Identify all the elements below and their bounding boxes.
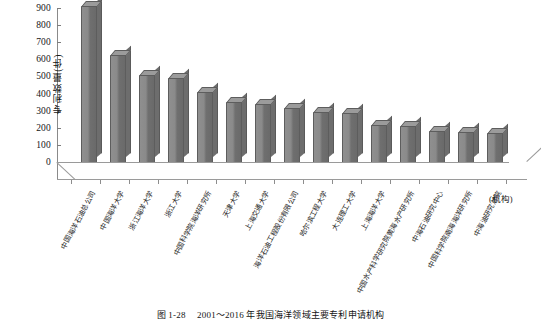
x-tick-mark — [129, 180, 130, 184]
bar-front-face — [371, 125, 387, 162]
x-tick-mark — [216, 180, 217, 184]
figure-container: 9008007006005004003002001000 专利数量(件) 中国海… — [0, 0, 541, 327]
bar[interactable] — [313, 112, 329, 162]
bar[interactable] — [429, 131, 445, 162]
bar[interactable] — [284, 108, 300, 162]
x-tick-mark — [506, 180, 507, 184]
bar[interactable] — [81, 6, 97, 162]
x-tick-mark — [100, 180, 101, 184]
x-tick-mark — [361, 180, 362, 184]
y-tick-label: 200 — [2, 122, 57, 134]
x-axis-title: (机构) — [489, 192, 513, 204]
bar-side-face — [242, 93, 247, 157]
bar-series — [57, 8, 527, 162]
x-axis-label: 大连理工大学 — [331, 190, 358, 232]
bar-front-face — [255, 104, 271, 162]
x-tick-mark — [187, 180, 188, 184]
bar-front-face — [110, 55, 126, 162]
bar-front-face — [400, 126, 416, 162]
x-axis-label: 中海石油研究中心 — [411, 190, 445, 244]
bar-front-face — [139, 75, 155, 162]
bar-side-face — [184, 69, 189, 157]
x-axis-label: 浙江海洋大学 — [128, 190, 155, 232]
x-axis-label: 天津大学 — [222, 190, 242, 219]
x-axis-labels: 中国海洋石油总公司中国海洋大学浙江海洋大学浙江大学中国科学院海洋研究所天津大学上… — [57, 190, 537, 300]
y-tick-label: 400 — [2, 88, 57, 100]
bar-front-face — [458, 132, 474, 162]
bar-front-face — [81, 6, 97, 162]
y-tick-label: 900 — [2, 2, 57, 14]
bar[interactable] — [255, 104, 271, 162]
x-tick-mark — [477, 180, 478, 184]
y-tick-label: 0 — [2, 156, 57, 168]
y-tick-label: 300 — [2, 105, 57, 117]
bar[interactable] — [168, 78, 184, 162]
bar-front-face — [168, 78, 184, 162]
x-axis-label: 浙江大学 — [164, 190, 184, 219]
bar-front-face — [226, 102, 242, 162]
bar[interactable] — [110, 55, 126, 162]
x-tick-mark — [245, 180, 246, 184]
axis-floor-right-edge — [508, 162, 527, 180]
bar-side-face — [213, 83, 218, 157]
bar-front-face — [284, 108, 300, 162]
bar[interactable] — [458, 132, 474, 162]
x-axis-label: 上海交通大学 — [244, 190, 271, 232]
bar-side-face — [126, 46, 131, 157]
bar[interactable] — [139, 75, 155, 162]
bar[interactable] — [342, 113, 358, 162]
x-axis-label: 上海海洋大学 — [360, 190, 387, 232]
x-tick-mark — [158, 180, 159, 184]
x-axis-label: 中国海洋大学 — [99, 190, 126, 232]
y-tick-label: 700 — [2, 36, 57, 48]
bar[interactable] — [226, 102, 242, 162]
bar-front-face — [313, 112, 329, 162]
x-tick-mark — [419, 180, 420, 184]
bar-front-face — [342, 113, 358, 162]
x-axis — [57, 162, 527, 180]
x-tick-mark — [448, 180, 449, 184]
bar[interactable] — [371, 125, 387, 162]
x-axis-label: 哈尔滨工程大学 — [298, 190, 329, 238]
y-tick-label: 800 — [2, 19, 57, 31]
x-axis-label: 中国水产科学研究院黄海水产研究所 — [355, 190, 416, 295]
x-tick-mark — [390, 180, 391, 184]
bar-front-face — [197, 92, 213, 162]
x-tick-mark — [274, 180, 275, 184]
axis-floor-front — [57, 179, 527, 180]
x-tick-mark — [332, 180, 333, 184]
x-tick-mark — [71, 180, 72, 184]
x-axis-label: 中国海洋石油总公司 — [60, 190, 97, 251]
x-tick-mark — [303, 180, 304, 184]
bar-side-face — [97, 0, 102, 157]
y-tick-label: 600 — [2, 53, 57, 65]
bar[interactable] — [487, 133, 503, 162]
y-tick-label: 500 — [2, 70, 57, 82]
caption-number: 图 1-28 — [157, 310, 186, 320]
axis-floor-top — [57, 162, 509, 163]
axis-floor-left-edge — [57, 162, 76, 180]
y-tick-label: 100 — [2, 139, 57, 151]
bar-front-face — [487, 133, 503, 162]
figure-caption: 图 1-28 2001～2016 年我国海洋领域主要专利申请机构 — [0, 308, 541, 321]
bar-front-face — [429, 131, 445, 162]
bar[interactable] — [197, 92, 213, 162]
caption-text: 2001～2016 年我国海洋领域主要专利申请机构 — [197, 310, 384, 320]
bar[interactable] — [400, 126, 416, 162]
bar-side-face — [155, 66, 160, 157]
plot-area: 9008007006005004003002001000 专利数量(件) — [57, 8, 527, 180]
